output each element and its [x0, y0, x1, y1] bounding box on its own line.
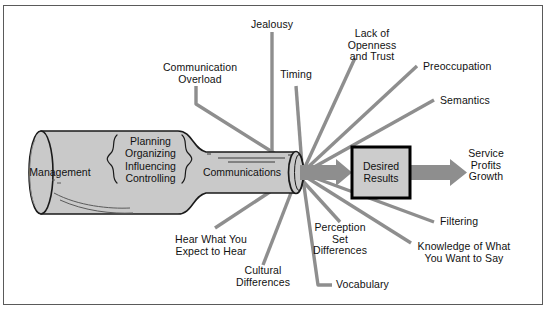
outcome-results-label: Service Profits Growth — [455, 148, 517, 183]
barrier-label-perception-set-differences: Perception Set Differences — [300, 222, 380, 257]
funnel-neck-label: Communications — [196, 166, 288, 178]
barrier-label-hear-what-you-expect-to-hear: Hear What You Expect to Hear — [157, 234, 265, 257]
diagram-canvas: Management Planning Organizing Influenci… — [0, 0, 549, 322]
barrier-label-lack-of-openness-and-trust: Lack of Openness and Trust — [336, 28, 408, 63]
barrier-label-cultural-differences: Cultural Differences — [226, 265, 300, 288]
barrier-label-knowledge-of-what-you-want-to-say: Knowledge of What You Want to Say — [404, 241, 524, 264]
barrier-label-filtering: Filtering — [440, 216, 510, 228]
barrier-label-jealousy: Jealousy — [241, 19, 303, 31]
management-functions-list: Planning Organizing Influencing Controll… — [113, 135, 188, 185]
barrier-label-timing: Timing — [272, 69, 320, 81]
barrier-label-vocabulary: Vocabulary — [336, 279, 414, 291]
desired-results-label: Desired Results — [352, 160, 410, 185]
barrier-label-preoccupation: Preoccupation — [423, 61, 513, 73]
barrier-label-communication-overload: Communication Overload — [156, 62, 244, 85]
barrier-label-semantics: Semantics — [440, 95, 520, 107]
funnel-source-label: Management — [20, 166, 100, 178]
